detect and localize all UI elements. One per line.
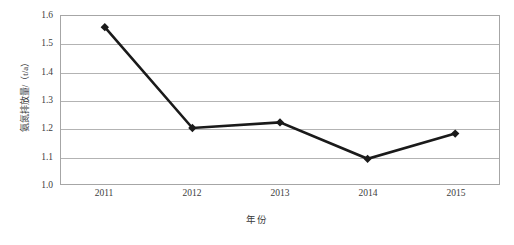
plot-area	[60, 15, 500, 185]
x-axis-title: 年份	[0, 212, 514, 226]
y-tick-label: 1.6	[20, 10, 58, 20]
data-point-marker	[276, 118, 284, 126]
y-tick-label: 1.1	[20, 152, 58, 162]
line-chart-figure: 氨氮排放量/（t/a） 1.01.11.21.31.41.51.6 201120…	[0, 0, 514, 245]
y-tick-label: 1.3	[20, 95, 58, 105]
x-tick-label: 2012	[183, 188, 202, 198]
x-axis-tick-labels: 20112012201320142015	[60, 188, 500, 204]
data-point-marker	[363, 155, 371, 163]
x-tick-label: 2013	[271, 188, 290, 198]
x-tick-label: 2015	[447, 188, 466, 198]
x-tick-label: 2011	[95, 188, 114, 198]
x-tick-label: 2014	[359, 188, 378, 198]
data-point-marker	[451, 129, 459, 137]
y-tick-label: 1.5	[20, 38, 58, 48]
y-tick-label: 1.4	[20, 67, 58, 77]
series-line	[105, 27, 455, 159]
y-tick-label: 1.2	[20, 123, 58, 133]
y-axis-tick-labels: 1.01.11.21.31.41.51.6	[20, 15, 58, 185]
data-series-layer	[61, 16, 499, 184]
y-tick-label: 1.0	[20, 180, 58, 190]
